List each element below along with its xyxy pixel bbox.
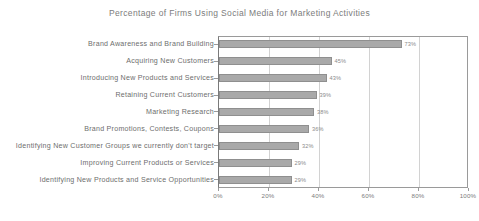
bar-value-label: 36% (312, 126, 324, 132)
category-label: Marketing Research (0, 108, 214, 116)
bar-value-label: 32% (302, 143, 314, 149)
x-tick-label: 80% (412, 192, 425, 199)
bar-value-label: 73% (405, 41, 417, 47)
x-tick-mark (218, 188, 219, 191)
x-axis: 0%20%40%60%80%100% (218, 188, 468, 202)
x-tick-mark (268, 188, 269, 191)
x-tick-label: 60% (362, 192, 375, 199)
chart-row: Brand Promotions, Contests, Coupons36% (0, 120, 479, 137)
category-tick (214, 128, 218, 129)
category-label: Improving Current Products or Services (0, 159, 214, 167)
chart-row: Identifying New Customer Groups we curre… (0, 137, 479, 154)
bar-value-label: 45% (335, 58, 347, 64)
category-label: Brand Promotions, Contests, Coupons (0, 125, 214, 133)
chart-row: Improving Current Products or Services29… (0, 154, 479, 171)
chart-row: Marketing Research38% (0, 104, 479, 121)
category-label: Introducing New Products and Services (0, 74, 214, 82)
bar (219, 74, 327, 82)
bar-value-label: 38% (317, 109, 329, 115)
category-tick (214, 44, 218, 45)
chart-rows: Brand Awareness and Brand Building73%Acq… (0, 36, 479, 188)
bar (219, 159, 292, 167)
x-tick-mark (318, 188, 319, 191)
bar (219, 108, 314, 116)
x-tick-mark (468, 188, 469, 191)
bar-chart: Percentage of Firms Using Social Media f… (0, 0, 479, 221)
category-label: Acquiring New Customers (0, 57, 214, 65)
bar-value-label: 39% (320, 92, 332, 98)
category-label: Brand Awareness and Brand Building (0, 40, 214, 48)
category-label: Identifying New Customer Groups we curre… (0, 142, 214, 150)
bar-value-label: 43% (330, 75, 342, 81)
bar (219, 57, 332, 65)
bar (219, 91, 317, 99)
bar-group: 29% (219, 154, 306, 171)
bar-group: 45% (219, 53, 346, 70)
category-tick (214, 61, 218, 62)
bar-group: 36% (219, 120, 324, 137)
bar-group: 43% (219, 70, 341, 87)
x-tick-label: 20% (262, 192, 275, 199)
bar-value-label: 29% (295, 177, 307, 183)
category-tick (214, 78, 218, 79)
category-tick (214, 95, 218, 96)
x-tick-label: 40% (312, 192, 325, 199)
category-label: Retaining Current Customers (0, 91, 214, 99)
bar-group: 73% (219, 36, 416, 53)
chart-title: Percentage of Firms Using Social Media f… (0, 8, 479, 18)
category-tick (214, 145, 218, 146)
bar-group: 29% (219, 171, 306, 188)
bar-group: 39% (219, 87, 331, 104)
chart-row: Retaining Current Customers39% (0, 87, 479, 104)
category-tick (214, 162, 218, 163)
bar-group: 38% (219, 104, 329, 121)
bar (219, 176, 292, 184)
bar-group: 32% (219, 137, 314, 154)
bar (219, 125, 309, 133)
category-tick (214, 111, 218, 112)
chart-row: Brand Awareness and Brand Building73% (0, 36, 479, 53)
chart-row: Introducing New Products and Services43% (0, 70, 479, 87)
chart-row: Identifying New Products and Service Opp… (0, 171, 479, 188)
x-tick-mark (368, 188, 369, 191)
category-tick (214, 179, 218, 180)
x-tick-label: 100% (460, 192, 477, 199)
chart-row: Acquiring New Customers45% (0, 53, 479, 70)
x-tick-label: 0% (213, 192, 222, 199)
bar (219, 40, 402, 48)
bar (219, 142, 299, 150)
category-label: Identifying New Products and Service Opp… (0, 176, 214, 184)
x-tick-mark (418, 188, 419, 191)
bar-value-label: 29% (295, 160, 307, 166)
